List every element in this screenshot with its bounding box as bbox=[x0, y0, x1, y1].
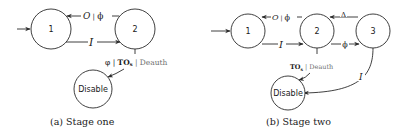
edge-2-to-disable bbox=[108, 69, 124, 77]
caption-stage-one: (a) Stage one bbox=[50, 116, 115, 127]
panel-stage-two: O | ϕ Δ I ϕ 1 2 3 TOs | Deauth I Disable bbox=[211, 10, 390, 127]
state-node-1-label: 1 bbox=[245, 27, 250, 36]
state-node-1-label: 1 bbox=[48, 25, 53, 34]
state-node-3-label: 3 bbox=[370, 27, 375, 36]
state-node-2-label: 2 bbox=[314, 27, 319, 36]
edge-label-i: I bbox=[88, 36, 94, 49]
panel-stage-one: O | ϕ I 1 2 φ | TOs | Deauth Disable (a)… bbox=[17, 9, 168, 127]
state-node-2-label: 2 bbox=[132, 25, 137, 34]
edge-label-i-3-to-disable: I bbox=[358, 72, 363, 82]
edge-label-phi: ϕ bbox=[342, 40, 348, 49]
edge-label-o-phi: O | ϕ bbox=[83, 11, 103, 21]
edge-label-timeout-deauth: φ | TOs | Deauth bbox=[105, 58, 168, 68]
edge-2-to-disable bbox=[299, 73, 310, 80]
caption-stage-two: (b) Stage two bbox=[266, 116, 331, 127]
state-diagram-figure: O | ϕ I 1 2 φ | TOs | Deauth Disable (a)… bbox=[0, 0, 405, 139]
state-node-disable-label: Disable bbox=[78, 85, 108, 94]
edge-label-o-phi: O | ϕ bbox=[272, 13, 290, 22]
edge-label-timeout-deauth: TOs | Deauth bbox=[290, 63, 333, 72]
state-node-disable-label: Disable bbox=[273, 89, 303, 98]
edge-label-delta: Δ bbox=[341, 11, 346, 19]
